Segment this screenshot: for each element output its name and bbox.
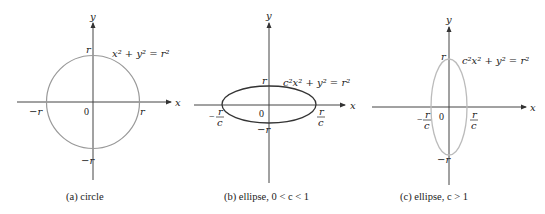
denominator: c [217,117,223,128]
tick-left-fraction: − r c [417,109,431,131]
tick-bottom: −r [81,155,95,166]
origin-label: 0 [259,108,264,119]
caption: (b) ellipse, 0 < c < 1 [224,191,309,203]
tick-left: −r [29,106,43,117]
tick-top: r [262,75,268,86]
tick-left-fraction: − r c [209,106,224,128]
y-axis-label: y [89,11,96,22]
equation: x² + y² = r² [112,48,170,59]
panel-circle: x y 0 r −r −r r x² + y² = r² (a) circle [17,11,181,203]
denominator: c [471,120,477,131]
tick-bottom: −r [257,124,271,135]
tick-right-fraction: r c [470,109,478,131]
tick-right: r [140,106,146,117]
x-axis-label: x [175,97,181,108]
origin-label: 0 [84,106,89,117]
tick-right-fraction: r c [317,106,325,128]
conic-diagrams: x y 0 r −r −r r x² + y² = r² (a) circle … [0,0,545,214]
panel-ellipse-tall: x y 0 r −r − r c r c c²x² + y² = r² (c) … [372,14,536,203]
denominator: c [424,120,430,131]
equation: c²x² + y² = r² [283,77,350,88]
minus-sign: − [417,114,423,125]
numerator: r [472,109,478,120]
equation: c²x² + y² = r² [462,55,529,66]
denominator: c [318,117,324,128]
tick-top: r [441,51,447,62]
x-axis-label: x [530,102,536,113]
minus-sign: − [209,111,215,122]
x-axis-label: x [350,100,356,111]
panel-ellipse-wide: x y 0 r −r − r c r c c²x² + y² = r² (b) … [194,10,356,203]
y-axis-label: y [265,10,272,21]
origin-label: 0 [439,111,444,122]
caption: (c) ellipse, c > 1 [400,191,468,203]
caption: (a) circle [66,191,104,203]
tick-top: r [86,44,92,55]
numerator: r [319,106,325,117]
y-axis-label: y [445,14,452,25]
numerator: r [425,109,431,120]
tick-bottom: −r [437,154,451,165]
